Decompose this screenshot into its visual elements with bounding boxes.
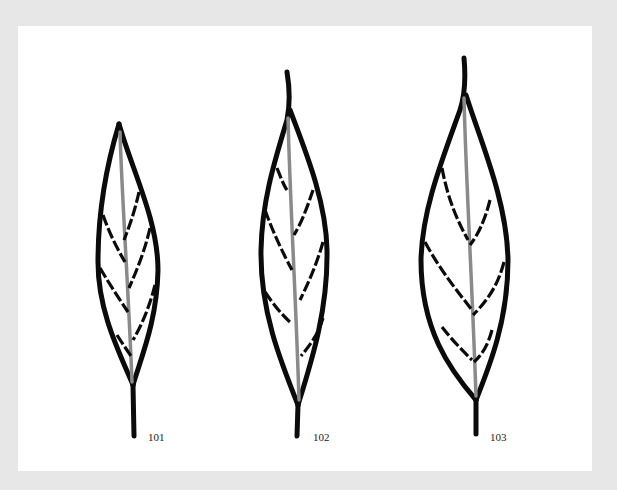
leaf-label-102: 102: [313, 431, 330, 443]
leaf-102-vein: [294, 190, 313, 235]
leaf-102-right-margin: [290, 110, 327, 405]
leaf-101-stem: [133, 385, 134, 436]
leaf-101-vein: [124, 192, 139, 240]
leaf-101-left-margin: [98, 124, 133, 385]
leaf-103-vein: [470, 200, 490, 245]
leaf-101-vein: [103, 215, 125, 262]
leaf-103-vein: [473, 262, 504, 315]
leaf-103-midrib: [464, 98, 476, 396]
leaf-102-vein: [265, 210, 292, 270]
leaf-103-vein: [425, 242, 472, 310]
leaf-102-stem: [297, 405, 298, 436]
leaf-103-right-margin: [466, 95, 508, 400]
leaf-102-midrib: [288, 118, 299, 400]
leaf-102-vein: [277, 168, 287, 190]
leaf-103-vein: [442, 168, 468, 240]
leaf-label-103: 103: [490, 431, 507, 443]
leaf-101: [98, 124, 158, 436]
leaf-illustrations: [0, 0, 617, 490]
leaf-102: [261, 72, 327, 436]
leaf-102-vein: [300, 242, 323, 300]
leaf-label-101: 101: [148, 431, 165, 443]
leaf-101-vein: [129, 228, 150, 288]
leaf-103: [421, 58, 508, 434]
